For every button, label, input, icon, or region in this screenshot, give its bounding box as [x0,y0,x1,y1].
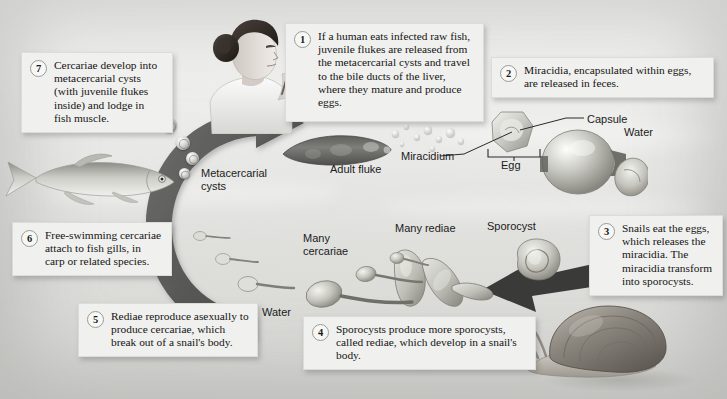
metacercarial-cyst [186,152,199,165]
step-text: Miracidia, encapsulated within eggs, are… [524,64,705,90]
callout-step-1: 1 If a human eats infected raw fish, juv… [285,23,484,122]
step-number: 4 [312,324,329,341]
carp-fish-illustration [2,146,178,208]
sporocyst-illustration [506,234,568,284]
step-number: 7 [30,60,47,77]
step-text: Free-swimming cercariae attach to fish g… [45,229,163,269]
callout-step-3: 3 Snails eat the eggs, which releases th… [589,215,723,296]
fluke-egg [414,134,420,140]
label-water-right: Water [624,126,653,139]
label-capsule: Capsule [587,113,627,126]
step-text: Sporocysts produce more sporocysts, call… [336,323,527,363]
free-cercaria [214,250,260,268]
fluke-egg [392,130,399,137]
callout-step-5: 5 Rediae reproduce asexually to produce … [78,303,258,357]
fluke-egg [400,142,404,146]
metacercarial-cyst [176,136,190,150]
callout-step-2: 2 Miracidia, encapsulated within eggs, a… [491,57,714,98]
life-cycle-diagram: Metacercarial cysts Adult fluke Capsule … [0,0,727,399]
label-egg: Egg [501,159,521,172]
label-adult-fluke: Adult fluke [330,163,381,176]
step-number: 6 [21,230,38,247]
metacercarial-cyst [179,168,190,179]
step-number: 5 [87,311,104,328]
callout-step-6: 6 Free-swimming cercariae attach to fish… [12,222,172,276]
fluke-egg [404,124,409,129]
label-metacercarial-cysts: Metacercarial cysts [201,167,267,193]
step-number: 1 [294,31,311,48]
step-number: 2 [500,65,517,82]
snail-illustration [516,300,706,392]
label-miracidium: Miracidium [401,150,454,163]
step-number: 3 [598,223,615,240]
cercariae-illustration [300,250,430,320]
step-text: Snails eat the eggs, which releases the … [622,222,714,288]
step-text: Rediae reproduce asexually to produce ce… [111,310,249,350]
label-sporocyst: Sporocyst [487,220,536,233]
label-water-bottom: Water [262,306,291,319]
callout-step-4: 4 Sporocysts produce more sporocysts, ca… [303,316,536,370]
free-cercaria [192,228,232,244]
label-many-cercariae: Many cercariae [303,232,348,258]
step-text: If a human eats infected raw fish, juven… [318,30,475,109]
step-text: Cercariae develop into metacercarial cys… [54,59,164,125]
capsule-leader-line [520,112,586,134]
fluke-egg [424,126,432,134]
free-cercaria [236,272,296,296]
label-many-rediae: Many rediae [395,222,456,235]
callout-step-7: 7 Cercariae develop into metacercarial c… [21,52,173,133]
